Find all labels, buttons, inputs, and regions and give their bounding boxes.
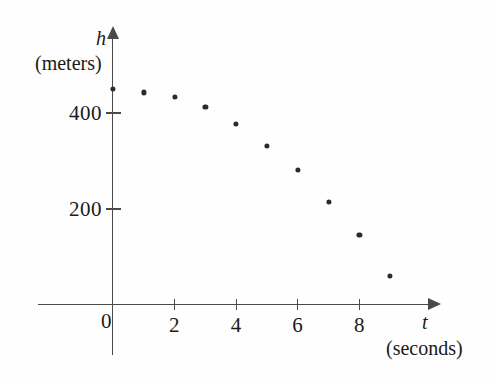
y-axis-tick-mark bbox=[106, 112, 121, 113]
x-axis-tick-label: 4 bbox=[231, 313, 242, 338]
data-point bbox=[326, 199, 331, 204]
x-axis-tick-mark bbox=[174, 299, 175, 310]
x-axis-arrow-icon bbox=[428, 298, 441, 310]
x-axis-tick-mark bbox=[359, 299, 360, 310]
data-point bbox=[234, 121, 239, 126]
y-axis-tick-mark bbox=[106, 208, 121, 209]
data-point bbox=[264, 144, 269, 149]
x-axis-tick-mark bbox=[236, 299, 237, 310]
x-axis-name-label: t bbox=[422, 311, 428, 334]
data-point bbox=[388, 274, 393, 279]
x-axis-tick-label: 2 bbox=[169, 313, 180, 338]
x-axis-tick-label: 6 bbox=[292, 313, 303, 338]
data-point bbox=[172, 95, 177, 100]
y-axis-tick-label: 400 bbox=[46, 101, 102, 126]
data-point bbox=[357, 232, 362, 237]
origin-label: 0 bbox=[101, 309, 112, 334]
x-axis-tick-mark bbox=[297, 299, 298, 310]
data-point bbox=[110, 86, 115, 91]
y-axis-name-label: h bbox=[96, 27, 106, 50]
scatter-plot-figure: 2468 200400 0 h (meters) t (seconds) bbox=[0, 0, 497, 381]
y-axis-unit-label: (meters) bbox=[35, 52, 102, 75]
data-point bbox=[203, 105, 208, 110]
x-axis-unit-label: (seconds) bbox=[386, 337, 463, 360]
y-axis-arrow-icon bbox=[107, 26, 119, 39]
y-axis-tick-label: 200 bbox=[46, 197, 102, 222]
y-axis-line bbox=[112, 36, 113, 355]
x-axis-tick-label: 8 bbox=[354, 313, 365, 338]
data-point bbox=[141, 90, 146, 95]
plot-area: 2468 200400 0 h (meters) t (seconds) bbox=[0, 0, 497, 381]
data-point bbox=[295, 168, 300, 173]
